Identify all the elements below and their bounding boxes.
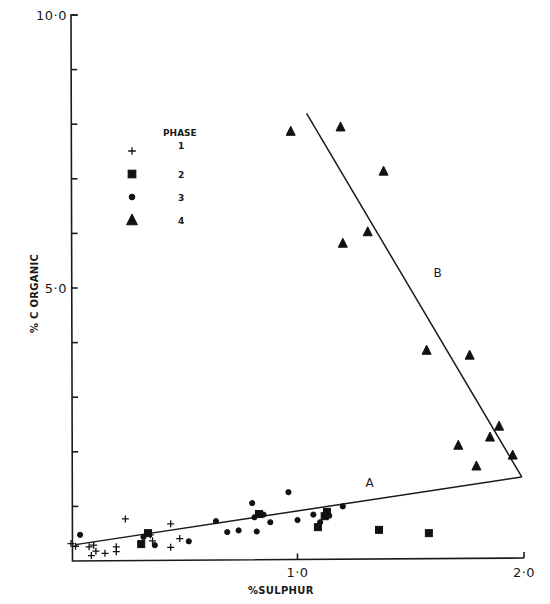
square-marker bbox=[376, 526, 383, 533]
legend-label: 2 bbox=[178, 170, 184, 180]
y-tick-label: 10·0 bbox=[36, 8, 67, 23]
triangle-marker bbox=[127, 214, 138, 225]
plus-marker bbox=[92, 548, 99, 555]
fit-lines: AB bbox=[76, 113, 522, 544]
circle-marker bbox=[261, 512, 266, 517]
circle-marker bbox=[327, 513, 332, 518]
legend-item-phase-1: 1 bbox=[128, 141, 184, 155]
circle-marker bbox=[152, 543, 157, 548]
legend-label: 1 bbox=[178, 141, 184, 151]
square-marker bbox=[128, 170, 136, 178]
y-tick-label: 5·0 bbox=[45, 281, 67, 296]
circle-marker bbox=[286, 490, 291, 495]
series-phase-3 bbox=[77, 490, 345, 548]
legend-item-phase-3: 3 bbox=[129, 193, 184, 203]
circle-marker bbox=[225, 529, 230, 534]
square-marker bbox=[138, 541, 145, 548]
square-marker bbox=[425, 530, 432, 537]
plus-marker bbox=[88, 552, 95, 559]
plus-marker bbox=[122, 515, 129, 522]
circle-marker bbox=[340, 504, 345, 509]
triangle-marker bbox=[465, 350, 474, 359]
triangle-marker bbox=[422, 345, 431, 354]
data-points bbox=[68, 122, 518, 559]
circle-marker bbox=[318, 520, 323, 525]
triangle-marker bbox=[472, 461, 481, 470]
scatter-chart: 5·010·01·02·0 AB PHASE1234 %SULPHUR% C O… bbox=[0, 0, 550, 604]
circle-marker bbox=[186, 539, 191, 544]
legend: PHASE1234 bbox=[127, 128, 197, 226]
series-phase-4 bbox=[286, 122, 517, 470]
legend-label: 4 bbox=[178, 216, 184, 226]
circle-marker bbox=[77, 532, 82, 537]
plus-marker bbox=[176, 535, 183, 542]
triangle-marker bbox=[336, 122, 345, 131]
circle-marker bbox=[250, 501, 255, 506]
triangle-marker bbox=[495, 421, 504, 430]
circle-marker bbox=[141, 534, 146, 539]
legend-title: PHASE bbox=[163, 128, 197, 138]
x-axis-title: %SULPHUR bbox=[248, 585, 314, 596]
plus-marker bbox=[167, 520, 174, 527]
circle-marker bbox=[311, 512, 316, 517]
triangle-marker bbox=[508, 450, 517, 459]
y-axis-title: % C ORGANIC bbox=[29, 254, 40, 333]
axis-lines bbox=[71, 15, 524, 561]
triangle-marker bbox=[379, 166, 388, 175]
circle-marker bbox=[254, 529, 259, 534]
plus-marker bbox=[101, 550, 108, 557]
axis-ticks: 5·010·01·02·0 bbox=[36, 8, 535, 580]
line-label-b: B bbox=[433, 266, 441, 280]
triangle-marker bbox=[454, 440, 463, 449]
legend-item-phase-4: 4 bbox=[127, 214, 185, 226]
legend-label: 3 bbox=[178, 193, 184, 203]
axes bbox=[71, 15, 524, 561]
plus-marker bbox=[128, 147, 136, 155]
triangle-marker bbox=[486, 432, 495, 441]
x-tick-label: 2·0 bbox=[513, 565, 535, 580]
legend-item-phase-2: 2 bbox=[128, 170, 184, 180]
circle-marker bbox=[129, 194, 135, 200]
triangle-marker bbox=[363, 227, 372, 236]
x-tick-label: 1·0 bbox=[286, 565, 308, 580]
fit-line-b bbox=[307, 113, 522, 477]
plus-marker bbox=[167, 544, 174, 551]
triangle-marker bbox=[286, 126, 295, 135]
circle-marker bbox=[236, 528, 241, 533]
circle-marker bbox=[295, 517, 300, 522]
circle-marker bbox=[268, 520, 273, 525]
plus-marker bbox=[86, 543, 93, 550]
circle-marker bbox=[213, 519, 218, 524]
plus-marker bbox=[113, 543, 120, 550]
line-label-a: A bbox=[365, 476, 374, 490]
triangle-marker bbox=[338, 238, 347, 247]
circle-marker bbox=[252, 515, 257, 520]
